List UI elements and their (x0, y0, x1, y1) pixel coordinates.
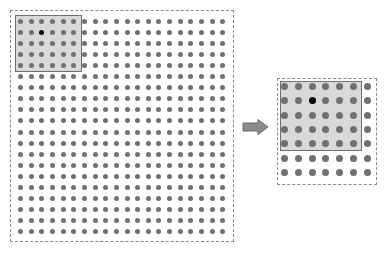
grid-dot (336, 169, 343, 176)
grid-dot (29, 30, 34, 35)
grid-dot (295, 126, 302, 133)
grid-dot (29, 130, 34, 135)
grid-dot (135, 152, 140, 157)
grid-dot (178, 218, 183, 223)
grid-dot (61, 41, 66, 46)
grid-dot (50, 30, 55, 35)
grid-dot (103, 163, 108, 168)
grid-dot (82, 229, 87, 234)
grid-dot (210, 63, 215, 68)
grid-dot (61, 19, 66, 24)
grid-dot (93, 152, 98, 157)
grid-dot (50, 130, 55, 135)
grid-dot (82, 141, 87, 146)
grid-dot (336, 155, 343, 162)
grid-dot (61, 163, 66, 168)
grid-dot (350, 155, 357, 162)
grid-dot (125, 85, 130, 90)
grid-dot (103, 141, 108, 146)
grid-dot (178, 74, 183, 79)
grid-dot (167, 229, 172, 234)
grid-dot (167, 152, 172, 157)
grid-dot (29, 63, 34, 68)
grid-dot (61, 96, 66, 101)
grid-dot (29, 163, 34, 168)
grid-dot (125, 207, 130, 212)
grid-dot (210, 52, 215, 57)
grid-dot (146, 229, 151, 234)
grid-dot (93, 218, 98, 223)
grid-dot (103, 152, 108, 157)
grid-dot (114, 52, 119, 57)
grid-dot (364, 83, 371, 90)
grid-dot (61, 174, 66, 179)
grid-dot (61, 207, 66, 212)
grid-dot (29, 218, 34, 223)
grid-dot (18, 130, 23, 135)
grid-dot (71, 174, 76, 179)
grid-dot (82, 185, 87, 190)
grid-dot (125, 30, 130, 35)
grid-dot (125, 52, 130, 57)
grid-dot (18, 163, 23, 168)
grid-dot (125, 163, 130, 168)
grid-dot (295, 169, 302, 176)
grid-dot (295, 140, 302, 147)
grid-dot (114, 163, 119, 168)
grid-dot (114, 19, 119, 24)
grid-dot (125, 107, 130, 112)
grid-dot (146, 130, 151, 135)
grid-dot (178, 207, 183, 212)
grid-dot (167, 207, 172, 212)
grid-dot (29, 196, 34, 201)
grid-dot (61, 152, 66, 157)
grid-dot (82, 163, 87, 168)
grid-dot (295, 112, 302, 119)
grid-dot (199, 141, 204, 146)
grid-dot (114, 207, 119, 212)
grid-dot (364, 140, 371, 147)
grid-dot (29, 141, 34, 146)
grid-dot (178, 141, 183, 146)
grid-dot (18, 196, 23, 201)
arrow-right-icon (242, 119, 269, 135)
grid-dot (29, 85, 34, 90)
grid-dot (322, 112, 329, 119)
grid-dot (71, 141, 76, 146)
grid-dot (93, 52, 98, 57)
grid-dot (146, 163, 151, 168)
grid-dot (167, 196, 172, 201)
grid-dot (50, 174, 55, 179)
grid-dot (178, 130, 183, 135)
grid-dot (29, 52, 34, 57)
grid-dot (103, 185, 108, 190)
grid-dot (82, 207, 87, 212)
grid-dot (125, 96, 130, 101)
grid-dot (29, 74, 34, 79)
grid-dot (210, 229, 215, 234)
grid-dot (61, 63, 66, 68)
grid-dot (39, 141, 44, 146)
grid-dot (93, 96, 98, 101)
grid-dot (220, 141, 225, 146)
grid-dot (50, 152, 55, 157)
grid-dot (50, 141, 55, 146)
grid-dot (188, 130, 193, 135)
grid-dot (93, 174, 98, 179)
grid-dot (82, 174, 87, 179)
grid-dot (29, 41, 34, 46)
grid-dot (146, 218, 151, 223)
grid-dot (29, 152, 34, 157)
center-dot (309, 97, 316, 104)
grid-dot (125, 229, 130, 234)
grid-dot (146, 207, 151, 212)
grid-dot (210, 30, 215, 35)
grid-dot (18, 19, 23, 24)
grid-dot (29, 207, 34, 212)
grid-dot (167, 174, 172, 179)
grid-dot (125, 185, 130, 190)
grid-dot (167, 130, 172, 135)
grid-dot (29, 19, 34, 24)
grid-dot (71, 152, 76, 157)
grid-dot (281, 83, 288, 90)
